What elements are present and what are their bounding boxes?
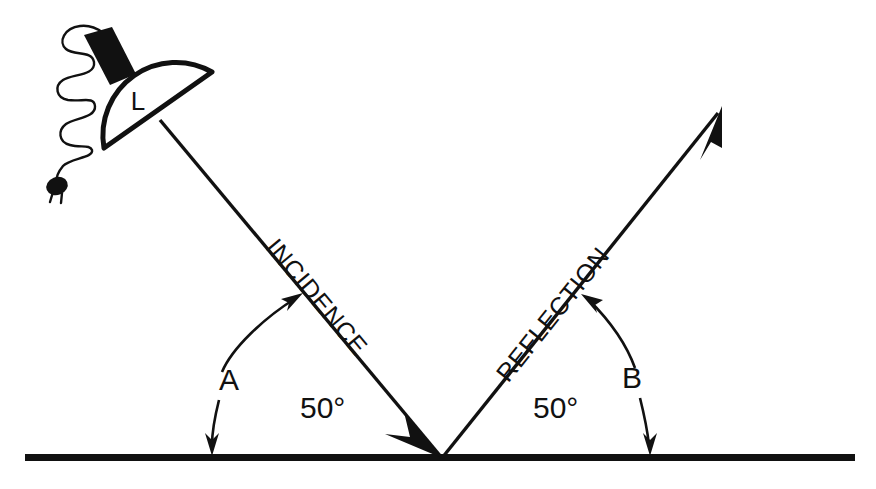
reflection-ray: REFLECTION xyxy=(442,106,722,458)
angle-a-arc-upper xyxy=(222,298,296,372)
angle-a-arrowhead-upper xyxy=(281,293,303,311)
angle-value-left: 50° xyxy=(300,391,345,424)
angle-a-label: A xyxy=(219,363,239,396)
diagram-canvas: INCIDENCE REFLECTION A B xyxy=(0,0,876,489)
lamp-label: L xyxy=(131,86,145,116)
angle-b-label: B xyxy=(622,361,642,394)
lamp: L xyxy=(43,26,212,203)
angle-marker-a: A xyxy=(205,293,303,456)
angle-b-arrowhead-lower xyxy=(643,433,657,456)
incidence-arrowhead xyxy=(385,412,442,458)
two-prong-plug xyxy=(43,174,70,203)
reflection-ray-label: REFLECTION xyxy=(490,242,614,387)
angle-marker-b: B xyxy=(581,294,657,456)
angle-value-right: 50° xyxy=(533,391,578,424)
reflection-diagram: INCIDENCE REFLECTION A B xyxy=(0,0,876,489)
incidence-ray-label: INCIDENCE xyxy=(261,233,373,360)
